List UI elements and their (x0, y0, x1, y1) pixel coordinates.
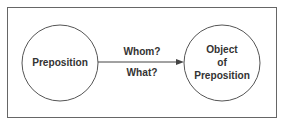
object-node-label-line-1: Object (189, 43, 256, 56)
arrowhead-icon (176, 59, 184, 65)
edge-label-line-1: Whom? (116, 45, 169, 58)
object-node-label-line-3: Preposition (189, 69, 256, 82)
edge-label-line-2: What? (116, 66, 169, 79)
object-node-label-line-2: of (189, 56, 256, 69)
preposition-node-label: Preposition (28, 56, 91, 69)
